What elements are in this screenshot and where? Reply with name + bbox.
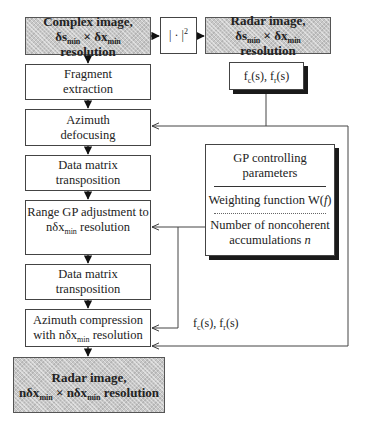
- gp-title: parameters: [243, 166, 298, 181]
- frequency-functions-text: fc(s), fr(s): [244, 69, 290, 84]
- input-complex-image-box: Complex image, δsmin × δxmin resolution: [25, 17, 151, 55]
- step-label: with nδxmin resolution: [33, 328, 142, 343]
- step-label: Azimuth compression: [33, 313, 143, 328]
- abs-square-symbol: | · |2: [169, 28, 188, 43]
- gp-divider: [214, 186, 327, 187]
- step-label: nδxmin resolution: [46, 220, 130, 235]
- gp-weighting-function: Weighting function W(f): [208, 193, 331, 208]
- radar-top-title: Radar image,: [231, 13, 306, 28]
- step-label: Azimuth: [66, 113, 110, 128]
- step-label: Range GP adjustment to: [27, 205, 148, 220]
- radar-top-resolution: δsmin × δxmin resolution: [206, 28, 330, 58]
- step-azimuth-defocusing: Azimuth defocusing: [25, 109, 151, 146]
- step-label: extraction: [63, 82, 113, 97]
- step-label: transposition: [56, 282, 121, 297]
- step-data-matrix-transposition: Data matrix transposition: [25, 155, 151, 191]
- step-label: Data matrix: [58, 158, 117, 173]
- step-label: Fragment: [64, 67, 112, 82]
- frequency-functions-box: fc(s), fr(s): [229, 62, 304, 90]
- step-data-matrix-transposition-2: Data matrix transposition: [25, 264, 151, 300]
- gp-controlling-parameters-box: GP controlling parameters Weighting func…: [205, 144, 335, 256]
- step-fragment-extraction: Fragment extraction: [25, 64, 151, 100]
- output-box-resolution: nδxmin × nδxmin resolution: [19, 385, 159, 400]
- step-azimuth-compression: Azimuth compression with nδxmin resoluti…: [25, 309, 151, 347]
- gp-noncoherent-label: Number of noncoherent: [210, 218, 329, 233]
- frequency-functions-label: fc(s), fr(s): [193, 316, 239, 331]
- output-box-title: Radar image,: [52, 370, 127, 385]
- gp-title: GP controlling: [233, 151, 307, 166]
- step-label: defocusing: [61, 128, 116, 143]
- step-range-gp-adjustment: Range GP adjustment to nδxmin resolution: [25, 200, 151, 255]
- input-box-resolution: δsmin × δxmin resolution: [26, 29, 150, 59]
- output-radar-image-box: Radar image, nδxmin × nδxmin resolution: [13, 357, 165, 413]
- step-label: Data matrix: [58, 267, 117, 282]
- gp-dotted-divider: [214, 213, 327, 214]
- input-box-title: Complex image,: [43, 14, 133, 29]
- gp-noncoherent-label: accumulations n: [229, 233, 311, 248]
- gp-to-compress-arrow: [152, 227, 178, 328]
- radar-image-top-box: Radar image, δsmin × δxmin resolution: [205, 17, 331, 54]
- step-label: transposition: [56, 173, 121, 188]
- abs-square-box: | · |2: [160, 17, 197, 54]
